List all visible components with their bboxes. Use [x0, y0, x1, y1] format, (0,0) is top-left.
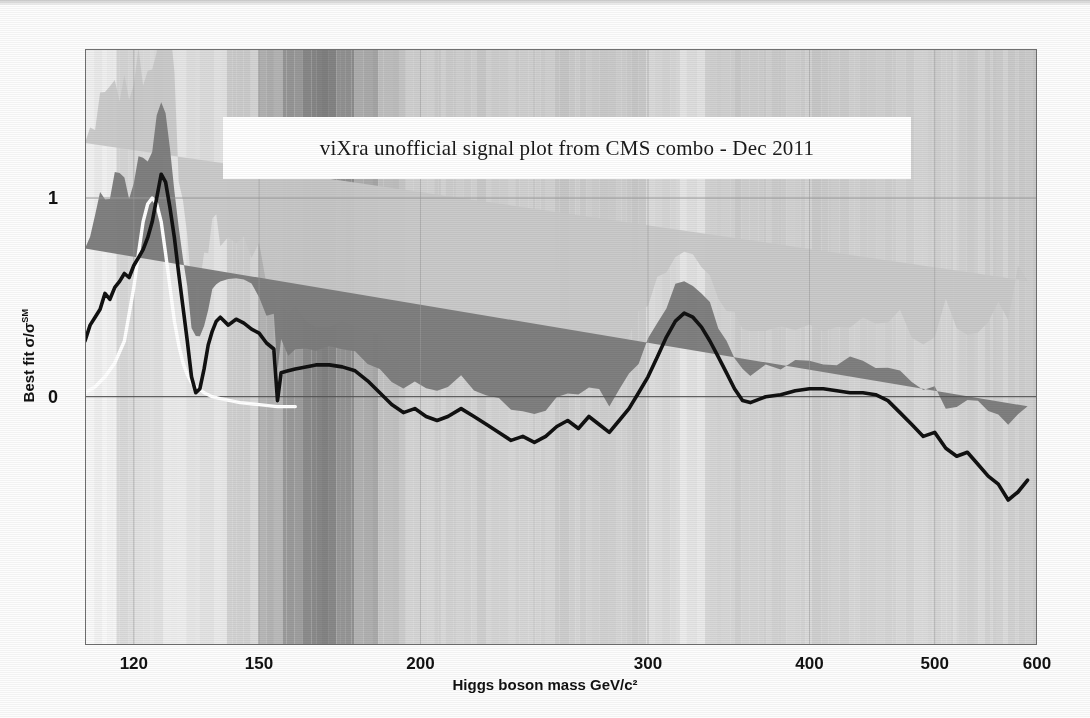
- x-tick-label-600: 600: [1023, 654, 1051, 674]
- y-tick-label-1: 1: [48, 188, 58, 209]
- y-axis-label-main: Best fit σ/σ: [20, 323, 37, 403]
- y-axis-label: Best fit σ/σSM: [20, 266, 37, 446]
- x-tick-label-300: 300: [634, 654, 662, 674]
- x-tick-label-500: 500: [920, 654, 948, 674]
- y-tick-label-0: 0: [48, 386, 58, 407]
- x-tick-label-150: 150: [245, 654, 273, 674]
- x-tick-label-120: 120: [120, 654, 148, 674]
- x-tick-label-200: 200: [406, 654, 434, 674]
- page-top-edge: [0, 0, 1090, 5]
- x-axis-label: Higgs boson mass GeV/c²: [0, 676, 1090, 693]
- figure-canvas: 120150200300400500600 10 Higgs boson mas…: [0, 0, 1090, 718]
- y-axis-label-superscript: SM: [20, 309, 30, 323]
- page-title: viXra unofficial signal plot from CMS co…: [320, 136, 814, 161]
- x-tick-label-400: 400: [795, 654, 823, 674]
- title-banner: viXra unofficial signal plot from CMS co…: [223, 117, 911, 179]
